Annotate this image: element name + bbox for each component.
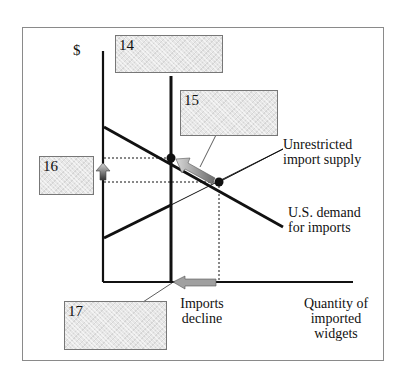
price-rise-arrow-icon xyxy=(96,163,110,180)
box15-leader xyxy=(200,135,216,167)
answer-box-17[interactable]: 17 xyxy=(64,301,167,350)
answer-box-17-number: 17 xyxy=(68,303,83,319)
box17-leader xyxy=(143,283,172,302)
supply-label-line-2: import supply xyxy=(283,152,361,167)
x-axis-label-line-1: Quantity of xyxy=(286,296,386,311)
x-axis-label-line-3: widgets xyxy=(286,326,386,341)
answer-box-14[interactable]: 14 xyxy=(115,35,223,73)
answer-box-14-number: 14 xyxy=(119,37,134,53)
supply-label-line-1: Unrestricted xyxy=(283,137,361,152)
free-trade-equilibrium-point xyxy=(215,178,224,187)
supply-label-leader xyxy=(219,149,283,182)
demand-label-line-1: U.S. demand xyxy=(288,205,361,220)
imports-decline-label: Imports decline xyxy=(172,296,232,326)
answer-box-16-number: 16 xyxy=(43,158,58,174)
imports-decline-line-1: Imports xyxy=(172,296,232,311)
answer-box-15-number: 15 xyxy=(184,92,199,108)
imports-decline-arrow-icon xyxy=(173,276,216,289)
answer-box-15[interactable]: 15 xyxy=(180,90,278,136)
y-axis-label: $ xyxy=(73,43,81,58)
quota-equilibrium-point xyxy=(167,154,176,163)
price-increase-arrow-icon xyxy=(176,158,215,184)
x-axis-label-line-2: imported xyxy=(286,311,386,326)
supply-curve-label: Unrestricted import supply xyxy=(283,137,361,167)
answer-box-16[interactable]: 16 xyxy=(39,156,94,195)
restricted-supply-segment xyxy=(104,205,171,238)
demand-curve-label: U.S. demand for imports xyxy=(288,205,361,235)
x-axis-label: Quantity of imported widgets xyxy=(286,296,386,341)
imports-decline-line-2: decline xyxy=(172,311,232,326)
demand-curve xyxy=(104,127,283,227)
demand-label-line-2: for imports xyxy=(288,220,361,235)
